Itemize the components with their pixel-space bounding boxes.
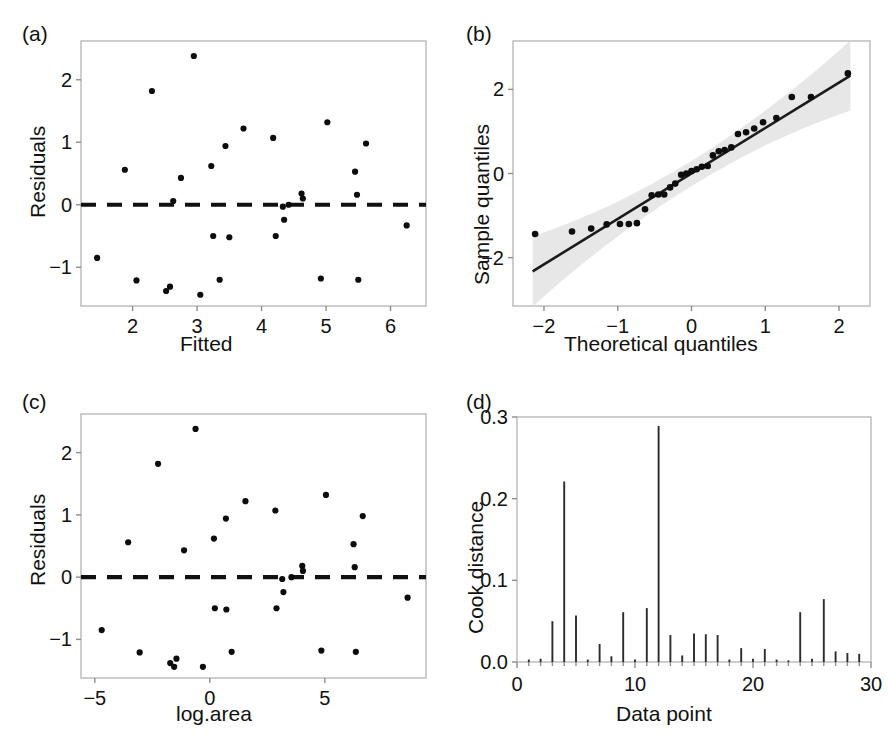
panel-c-ytick-1: 1 xyxy=(61,503,72,526)
panel-d-xtick-10: 10 xyxy=(624,673,646,696)
panel-b-xtick-0: 0 xyxy=(686,315,697,338)
panel-c-tag: (c) xyxy=(22,390,47,414)
panel-a-tag: (a) xyxy=(22,22,48,46)
panel-c-xtick--5: −5 xyxy=(83,687,106,710)
panel-a-xtick-3: 3 xyxy=(192,315,203,338)
panel-d-xtick-0: 0 xyxy=(511,673,522,696)
panel-b-xtick-2: 2 xyxy=(833,315,844,338)
panel-d-ytick-2: 0.2 xyxy=(480,487,508,510)
panel-b-ytick-2: 2 xyxy=(493,78,504,101)
panel-a-xtick-5: 5 xyxy=(320,315,331,338)
panel-a: (a) Residuals Fitted 23456−1012 xyxy=(0,0,445,375)
panel-a-ytick-0: 0 xyxy=(61,193,72,216)
figure-panel-grid: (a) Residuals Fitted 23456−1012 (b) Samp… xyxy=(0,0,889,750)
panel-d-xtick-20: 20 xyxy=(742,673,764,696)
panel-c-ytick--1: −1 xyxy=(49,628,72,651)
panel-d-ytick-3: 0.3 xyxy=(480,406,508,429)
panel-b: (b) Sample quantiles Theoretical quantil… xyxy=(444,0,889,375)
panel-b-plot xyxy=(444,0,889,375)
panel-b-xlabel: Theoretical quantiles xyxy=(564,332,758,356)
panel-c-ytick-2: 2 xyxy=(61,441,72,464)
panel-b-ytick-0: 0 xyxy=(493,162,504,185)
panel-b-xtick--2: −2 xyxy=(533,315,556,338)
panel-d: (d) Cook distance Data point 01020300.00… xyxy=(444,372,889,750)
panel-d-ylabel: Cook distance xyxy=(464,501,488,634)
panel-a-ytick-2: 2 xyxy=(61,68,72,91)
panel-a-xtick-2: 2 xyxy=(127,315,138,338)
panel-a-ytick-1: 1 xyxy=(61,131,72,154)
panel-c-xtick-5: 5 xyxy=(319,687,330,710)
panel-c-plot xyxy=(0,372,445,750)
panel-a-xtick-6: 6 xyxy=(385,315,396,338)
panel-a-xtick-4: 4 xyxy=(256,315,267,338)
panel-b-tag: (b) xyxy=(466,22,492,46)
panel-b-xtick--1: −1 xyxy=(606,315,629,338)
panel-a-xlabel: Fitted xyxy=(180,332,233,356)
panel-d-ytick-0: 0.0 xyxy=(480,651,508,674)
panel-c-ytick-0: 0 xyxy=(61,566,72,589)
panel-a-plot xyxy=(0,0,445,375)
panel-c-ylabel: Residuals xyxy=(26,494,50,586)
panel-a-ylabel: Residuals xyxy=(26,126,50,218)
panel-c: (c) Residuals log.area −505−1012 xyxy=(0,372,445,750)
panel-d-ytick-1: 0.1 xyxy=(480,569,508,592)
panel-c-xtick-0: 0 xyxy=(204,687,215,710)
panel-d-xlabel: Data point xyxy=(616,702,712,726)
panel-d-xtick-30: 30 xyxy=(860,673,882,696)
panel-b-xtick-1: 1 xyxy=(760,315,771,338)
panel-a-ytick--1: −1 xyxy=(49,256,72,279)
panel-b-ytick--2: −2 xyxy=(481,246,504,269)
